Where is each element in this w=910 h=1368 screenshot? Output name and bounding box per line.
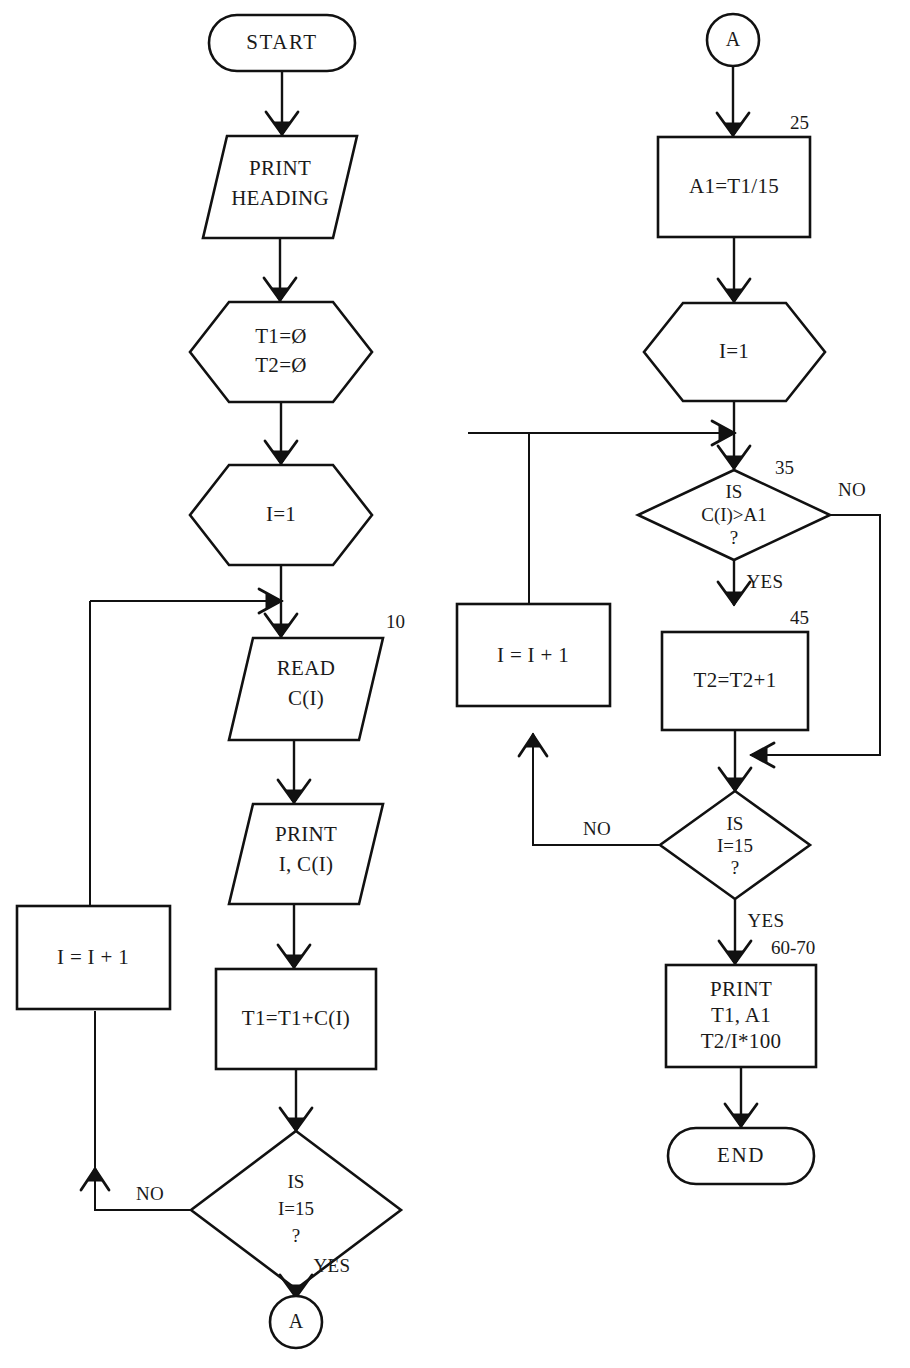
node-print-results-line1: PRINT [710, 977, 772, 1001]
arrow-fill-loopyes [727, 951, 743, 965]
line-number-average: 25 [790, 112, 809, 133]
node-print-values[interactable]: PRINT I, C(I) [229, 804, 383, 904]
node-print-results[interactable]: PRINT T1, A1 T2/I*100 [666, 965, 816, 1067]
node-right-increment-label: I = I + 1 [497, 643, 569, 667]
node-loop-decision-line2: I=15 [717, 835, 753, 856]
connector-a-in-label: A [726, 28, 741, 50]
node-loop-decision-line1: IS [727, 813, 744, 834]
connector-a-out-label: A [289, 1310, 304, 1332]
node-average[interactable]: A1=T1/15 [658, 137, 810, 237]
node-print-results-line2: T1, A1 [711, 1003, 771, 1027]
label-loop-yes: YES [747, 910, 784, 931]
node-print-heading-line2: HEADING [231, 186, 329, 210]
node-end-label: END [717, 1143, 765, 1167]
node-right-init-index[interactable]: I=1 [644, 303, 825, 401]
node-read-line1: READ [277, 656, 335, 680]
node-loop-decision-line3: ? [731, 857, 739, 878]
arrow-fill-ph [272, 288, 288, 302]
node-count-label: T2=T2+1 [694, 668, 777, 692]
flowchart-svg: START PRINT HEADING T1=Ø T2=Ø I=1 READ C… [0, 0, 910, 1368]
node-left-decision[interactable]: IS I=15 ? [191, 1131, 401, 1289]
line-number-compare: 35 [775, 457, 794, 478]
flowchart-canvas: START PRINT HEADING T1=Ø T2=Ø I=1 READ C… [0, 0, 910, 1368]
label-loop-no: NO [583, 818, 611, 839]
node-left-decision-line3: ? [292, 1225, 300, 1246]
node-read[interactable]: READ C(I) [229, 638, 383, 740]
label-left-yes: YES [313, 1255, 350, 1276]
connector-a-in[interactable]: A [707, 14, 759, 66]
arrow-fill-rii [726, 456, 742, 470]
node-print-values-line2: I, C(I) [279, 852, 334, 876]
arrow-fill-conn [725, 123, 741, 137]
arrow-fill-pr [733, 1114, 749, 1128]
arrow-fill-start [274, 122, 290, 136]
node-loop-decision[interactable]: IS I=15 ? [660, 791, 810, 899]
node-compare-decision-line3: ? [730, 527, 738, 548]
node-print-heading[interactable]: PRINT HEADING [203, 136, 357, 238]
node-init-totals[interactable]: T1=Ø T2=Ø [190, 302, 372, 402]
node-compare-decision[interactable]: IS C(I)>A1 ? [638, 470, 830, 560]
label-compare-no: NO [838, 479, 866, 500]
arrow-fill-pv [286, 955, 302, 969]
node-average-label: A1=T1/15 [689, 174, 779, 198]
node-compare-decision-line2: C(I)>A1 [701, 504, 767, 526]
node-print-heading-line1: PRINT [249, 156, 311, 180]
arrow-fill-read [286, 790, 302, 804]
node-left-increment-label: I = I + 1 [57, 945, 129, 969]
node-read-line2: C(I) [288, 686, 324, 710]
node-accumulate-label: T1=T1+C(I) [242, 1006, 350, 1030]
arrow-fill-it [273, 451, 289, 465]
line-number-read: 10 [386, 611, 405, 632]
node-init-totals-line2: T2=Ø [255, 353, 307, 377]
arrow-fill-cmpyes [726, 592, 742, 606]
node-left-decision-line2: I=15 [278, 1198, 314, 1219]
node-init-totals-line1: T1=Ø [255, 324, 307, 348]
node-left-init-index-label: I=1 [266, 502, 296, 526]
node-left-init-index[interactable]: I=1 [190, 465, 372, 565]
node-accumulate[interactable]: T1=T1+C(I) [216, 969, 376, 1069]
node-end[interactable]: END [668, 1128, 814, 1184]
line-number-print-results: 60-70 [771, 937, 815, 958]
node-start-label: START [246, 30, 318, 54]
node-right-increment[interactable]: I = I + 1 [457, 604, 610, 706]
node-print-values-line1: PRINT [275, 822, 337, 846]
arrow-fill-ii [273, 624, 289, 638]
node-print-results-line3: T2/I*100 [701, 1029, 782, 1053]
label-left-no: NO [136, 1183, 164, 1204]
node-right-init-index-label: I=1 [719, 339, 749, 363]
node-left-increment[interactable]: I = I + 1 [17, 906, 170, 1009]
label-compare-yes: YES [746, 571, 783, 592]
arrow-fill-avg [726, 289, 742, 303]
node-compare-decision-line1: IS [726, 481, 743, 502]
node-start[interactable]: START [209, 15, 355, 71]
node-left-decision-line1: IS [288, 1171, 305, 1192]
node-count[interactable]: T2=T2+1 [662, 632, 808, 730]
connector-a-out[interactable]: A [270, 1296, 322, 1348]
line-number-count: 45 [790, 607, 809, 628]
